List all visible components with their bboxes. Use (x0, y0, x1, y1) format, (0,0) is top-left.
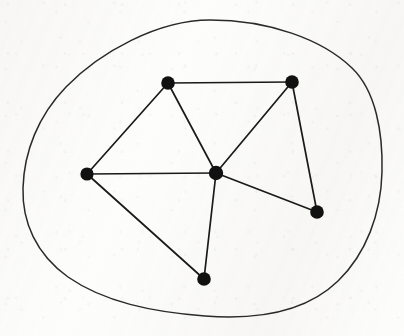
graph-edge-top_right-right (292, 82, 317, 212)
figure-root (0, 0, 404, 336)
graph-edge-top_left-top_right (168, 82, 292, 83)
planar-graph-figure (0, 0, 404, 336)
graph-edge-top_left-center (168, 83, 216, 173)
graph-vertex-left (80, 167, 93, 180)
graph-edge-left-bottom (87, 174, 204, 279)
graph-edge-top_left-left (87, 83, 168, 174)
graph-vertices-layer (80, 75, 323, 286)
graph-edge-center-bottom (204, 173, 216, 279)
graph-vertex-top_right (285, 75, 299, 89)
graph-edge-top_right-center (216, 82, 292, 173)
graph-vertex-center (209, 166, 223, 180)
graph-edge-left-center (87, 173, 216, 174)
graph-vertex-top_left (161, 76, 175, 90)
graph-vertex-bottom (197, 272, 211, 286)
graph-edge-center-right (216, 173, 317, 212)
graph-vertex-right (310, 205, 324, 219)
graph-edges-layer (87, 82, 317, 279)
